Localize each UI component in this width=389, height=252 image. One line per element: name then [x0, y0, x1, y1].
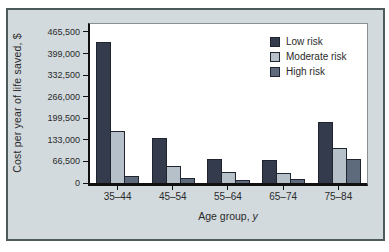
bar-group [152, 138, 195, 183]
bar-high-risk [124, 176, 139, 183]
x-axis-title: Age group, y [90, 210, 366, 222]
legend-label: Low risk [286, 36, 323, 47]
x-tick: 35–44 [96, 186, 139, 202]
bar-group [318, 122, 361, 183]
bar-moderate-risk [110, 131, 125, 183]
bar-low-risk [152, 138, 167, 183]
x-tick-label: 65–74 [262, 191, 305, 202]
legend-label: Moderate risk [286, 51, 347, 62]
x-tick: 65–74 [262, 186, 305, 202]
y-tick-label: 332,500 [47, 69, 80, 81]
x-axis-title-variable: y [253, 210, 258, 222]
x-tick-label: 55–64 [206, 191, 249, 202]
y-tick: 133,000 [47, 134, 88, 146]
y-tick-label: 133,000 [47, 134, 80, 146]
bar-moderate-risk [221, 172, 236, 183]
plot-area: Low riskModerate riskHigh risk [88, 23, 368, 186]
legend: Low riskModerate riskHigh risk [270, 36, 347, 81]
bar-high-risk [290, 179, 305, 183]
bar-moderate-risk [276, 173, 291, 183]
y-tick-label: 0 [75, 177, 80, 189]
bar-group [262, 160, 305, 183]
x-tick: 45–54 [151, 186, 194, 202]
legend-item: Moderate risk [270, 51, 347, 62]
legend-swatch [270, 37, 280, 47]
y-tick-label: 399,000 [47, 48, 80, 60]
x-tick-mark [172, 186, 173, 190]
bar-low-risk [318, 122, 333, 183]
x-tick-mark [227, 186, 228, 190]
bar-high-risk [180, 178, 195, 183]
x-axis: 35–4445–5455–6465–7475–84 [90, 186, 366, 202]
y-tick-label: 199,500 [47, 112, 80, 124]
bar-low-risk [262, 160, 277, 183]
bar-group [96, 42, 139, 183]
y-axis: 066,500133,000199,500266,000332,500399,0… [8, 24, 88, 183]
y-tick: 266,000 [47, 91, 88, 103]
y-tick-label: 66,500 [52, 155, 80, 167]
y-tick: 465,500 [47, 26, 88, 38]
x-tick-label: 35–44 [96, 191, 139, 202]
y-tick-label: 266,000 [47, 91, 80, 103]
legend-item: Low risk [270, 36, 347, 47]
x-axis-title-text: Age group, [198, 210, 252, 222]
y-tick: 332,500 [47, 69, 88, 81]
y-tick: 199,500 [47, 112, 88, 124]
x-tick-mark [283, 186, 284, 190]
y-tick-label: 465,500 [47, 26, 80, 38]
x-tick: 75–84 [317, 186, 360, 202]
x-tick: 55–64 [206, 186, 249, 202]
figure-card: Cost per year of life saved, $ 066,50013… [6, 8, 385, 241]
legend-item: High risk [270, 66, 347, 77]
y-tick: 66,500 [52, 155, 88, 167]
legend-swatch [270, 52, 280, 62]
y-tick: 0 [75, 177, 88, 189]
legend-label: High risk [286, 66, 325, 77]
bar-high-risk [346, 159, 361, 183]
x-tick-mark [117, 186, 118, 190]
bar-low-risk [207, 159, 222, 183]
legend-swatch [270, 67, 280, 77]
y-tick: 399,000 [47, 48, 88, 60]
bar-moderate-risk [166, 166, 181, 183]
bar-low-risk [96, 42, 111, 183]
x-tick-label: 45–54 [151, 191, 194, 202]
bar-moderate-risk [332, 148, 347, 183]
bar-group [207, 159, 250, 183]
x-tick-label: 75–84 [317, 191, 360, 202]
x-tick-mark [338, 186, 339, 190]
bar-high-risk [235, 180, 250, 183]
